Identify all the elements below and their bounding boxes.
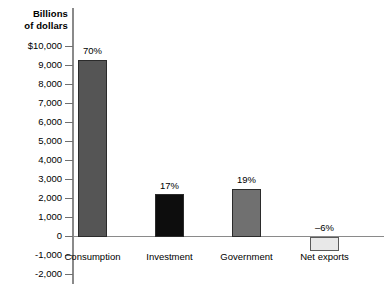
bar-value-government: 19% <box>222 174 271 185</box>
y-tick-label: -2,000 <box>0 269 62 279</box>
y-tick-label: 4,000 <box>0 155 62 165</box>
y-tick-mark <box>65 65 73 66</box>
y-tick-mark <box>65 122 73 123</box>
y-tick-mark <box>65 217 73 218</box>
y-tick-label: 8,000 <box>0 79 62 89</box>
y-tick-mark <box>65 141 73 142</box>
bar-investment <box>155 194 184 237</box>
bar-government <box>232 189 261 237</box>
y-tick-label: 3,000 <box>0 174 62 184</box>
y-tick-label: 0 <box>0 231 62 241</box>
y-tick-label: 9,000 <box>0 60 62 70</box>
bar-chart: Billions of dollars $10,000 9,000 8,000 … <box>0 0 388 297</box>
y-tick-label: 7,000 <box>0 98 62 108</box>
bar-value-consumption: 70% <box>68 45 117 56</box>
bar-value-investment: 17% <box>145 180 194 191</box>
y-tick-label: $10,000 <box>0 41 62 51</box>
category-label-net-exports: Net exports <box>293 251 356 262</box>
bar-net-exports <box>310 237 339 251</box>
bar-value-net-exports: –6% <box>300 222 349 233</box>
y-tick-label: 6,000 <box>0 117 62 127</box>
y-tick-label: 1,000 <box>0 212 62 222</box>
y-tick-mark <box>65 274 73 275</box>
y-axis-title-line-2: of dollars <box>0 20 68 32</box>
y-tick-label: 2,000 <box>0 193 62 203</box>
y-tick-label: 5,000 <box>0 136 62 146</box>
y-tick-mark <box>65 160 73 161</box>
y-tick-label: -1,000 <box>0 250 62 260</box>
y-tick-mark <box>65 198 73 199</box>
y-tick-mark <box>65 179 73 180</box>
y-tick-mark <box>65 103 73 104</box>
y-axis-title-line-1: Billions <box>0 8 68 20</box>
y-tick-mark <box>65 236 73 237</box>
category-label-consumption: Consumption <box>62 251 123 262</box>
category-label-government: Government <box>216 251 277 262</box>
category-label-investment: Investment <box>140 251 199 262</box>
y-axis-title: Billions of dollars <box>0 8 68 31</box>
y-tick-mark <box>65 84 73 85</box>
bar-consumption <box>78 60 107 237</box>
